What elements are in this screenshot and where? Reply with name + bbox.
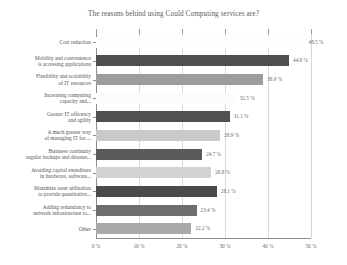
category-label: Flexibility and scalability of IT resour… <box>0 73 91 85</box>
y-axis-tick <box>93 80 96 81</box>
category-label: Cost reduction <box>0 39 91 45</box>
x-axis-line <box>96 238 311 239</box>
bar-value-label: 48.5 % <box>309 37 324 48</box>
bar <box>96 130 220 141</box>
chart-title: The reasons behind using Could Computing… <box>0 10 347 18</box>
y-axis-tick <box>93 61 96 62</box>
bar-value-label: 44.9 % <box>293 55 308 66</box>
plot-area: 48.5 %Cost reduction44.9 %Mobility and c… <box>96 33 311 238</box>
bar-row: 44.9 %Mobility and convenience is access… <box>96 52 311 71</box>
bar <box>96 55 289 66</box>
category-label: A much greater way of managing IT for ..… <box>0 129 91 141</box>
bar-value-label: 32.5 % <box>240 93 255 104</box>
bar <box>96 149 202 160</box>
y-axis-tick <box>93 117 96 118</box>
bar-row: 24.7 %Business continuity regular backup… <box>96 145 311 164</box>
bar-value-label: 28.9 % <box>224 130 239 141</box>
bar <box>96 74 263 85</box>
x-axis-tick-label: 50 % <box>305 243 316 249</box>
y-axis-tick <box>93 98 96 99</box>
bar-value-label: 23.4 % <box>201 205 216 216</box>
bar <box>96 93 236 104</box>
bar-row: 22.2 %Other <box>96 219 311 238</box>
gridline <box>311 33 312 238</box>
y-axis-tick <box>93 191 96 192</box>
bar-row: 38.9 %Flexibility and scalability of IT … <box>96 70 311 89</box>
x-axis-tick-label: 30 % <box>219 243 230 249</box>
bar-value-label: 28.1 % <box>221 186 236 197</box>
bar <box>96 223 191 234</box>
bar-row: 23.4 %Adding redundancy to network infra… <box>96 201 311 220</box>
bar-chart: The reasons behind using Could Computing… <box>0 0 347 265</box>
bar-value-label: 26.8 % <box>215 167 230 178</box>
x-axis-tick-label: 0 % <box>92 243 101 249</box>
bar-value-label: 22.2 % <box>195 223 210 234</box>
bar-row: 26.8 %Avoiding capital exenditure in har… <box>96 163 311 182</box>
bar <box>96 205 197 216</box>
bar <box>96 37 305 48</box>
category-label: Increasing computing capacity and... <box>0 92 91 104</box>
y-axis-tick <box>93 135 96 136</box>
bar <box>96 111 230 122</box>
x-axis-tick-label: 10 % <box>133 243 144 249</box>
bar-value-label: 24.7 % <box>206 149 221 160</box>
category-label: Greater IT officency and agility <box>0 111 91 123</box>
y-axis-tick <box>93 173 96 174</box>
category-label: Adding redundancy to network infrastruct… <box>0 204 91 216</box>
bar-row: 31.1 %Greater IT officency and agility <box>96 108 311 127</box>
bar-row: 28.1 %Maximize asset utilization to prov… <box>96 182 311 201</box>
bar-row: 32.5 %Increasing computing capacity and.… <box>96 89 311 108</box>
x-axis-tick-label: 40 % <box>262 243 273 249</box>
category-label: Business continuity regular backups and … <box>0 148 91 160</box>
bar <box>96 167 211 178</box>
y-axis-tick <box>93 210 96 211</box>
bar-row: 48.5 %Cost reduction <box>96 33 311 52</box>
category-label: Maximize asset utilization to provide qu… <box>0 185 91 197</box>
category-label: Avoiding capital exenditure in hardware,… <box>0 167 91 179</box>
x-axis-tick <box>311 29 312 34</box>
category-label: Other <box>0 226 91 232</box>
bar-value-label: 38.9 % <box>267 74 282 85</box>
y-axis-tick <box>93 229 96 230</box>
y-axis-tick <box>93 154 96 155</box>
x-axis-tick-label: 20 % <box>176 243 187 249</box>
category-label: Mobility and convenience is accessing ap… <box>0 55 91 67</box>
bar-row: 28.9 %A much greater way of managing IT … <box>96 126 311 145</box>
bar <box>96 186 217 197</box>
y-axis-tick <box>93 42 96 43</box>
bar-value-label: 31.1 % <box>234 111 249 122</box>
